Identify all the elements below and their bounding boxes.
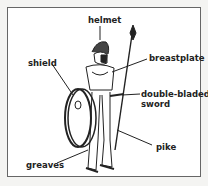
pike-shaft	[115, 28, 133, 150]
shield-leader	[52, 64, 73, 95]
label-sword-line2: sword	[141, 99, 170, 109]
breastplate-leader	[112, 59, 147, 72]
label-helmet: helmet	[88, 15, 121, 25]
label-greaves: greaves	[26, 160, 64, 170]
label-pike: pike	[156, 142, 176, 152]
label-sword-line1: double-bladed	[141, 89, 208, 99]
pike-leader	[117, 130, 152, 145]
sword-leader	[122, 94, 140, 95]
label-breastplate: breastplate	[149, 53, 204, 63]
label-shield: shield	[28, 58, 57, 68]
